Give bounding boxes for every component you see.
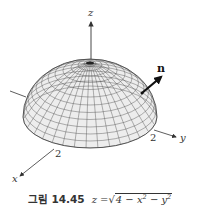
hemisphere-surface [23, 59, 157, 150]
sqrt-symbol: √ [108, 194, 114, 205]
figure-caption: 그림 14.45 z =√4 − x2 − y2 [0, 189, 200, 207]
x-axis [20, 149, 54, 176]
y-axis-label: y [179, 132, 186, 143]
radicand: 4 − x2 − y2 [115, 193, 172, 205]
y-tick-2: 2 [150, 132, 156, 143]
normal-vector-label: n [157, 62, 165, 75]
equation-lhs: z = [92, 194, 109, 205]
x-axis-label: x [12, 173, 18, 184]
figure-number: 그림 14.45 [28, 193, 85, 205]
z-axis-label: z [87, 7, 94, 18]
hemisphere-figure: z x y 2 2 n [0, 0, 200, 185]
radicand-term-2: − y [147, 194, 167, 205]
x-axis-back [10, 91, 26, 97]
y-axis [154, 130, 176, 137]
exponent-y: 2 [167, 193, 171, 201]
caption-equation: z =√4 − x2 − y2 [92, 194, 173, 205]
radicand-term-1: 4 − x [116, 194, 143, 205]
x-tick-2: 2 [55, 148, 61, 159]
